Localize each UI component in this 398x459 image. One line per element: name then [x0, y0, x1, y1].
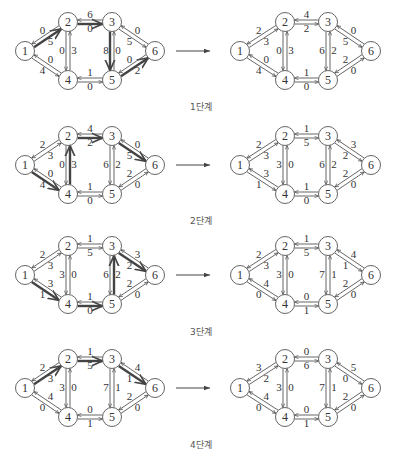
edge-1-2: 32: [247, 248, 278, 272]
capacity-label: 0: [87, 304, 93, 316]
capacity-label: 0: [304, 345, 310, 357]
edge-5-6: 02: [335, 53, 364, 77]
capacity-label: 2: [127, 390, 133, 402]
node-1: 1: [231, 42, 250, 61]
edge-2-4: 30: [276, 256, 294, 295]
capacity-label: 3: [48, 149, 54, 161]
capacity-label: 1: [343, 259, 349, 271]
node-1: 1: [16, 42, 35, 61]
stage-label: 1단계: [190, 100, 212, 113]
node-1: 1: [231, 379, 250, 398]
capacity-label: 0: [343, 372, 349, 384]
residual-graph-before: 3204153001711402123456: [16, 345, 165, 429]
edge-1-2: 32: [247, 24, 278, 48]
capacity-label: 1: [127, 372, 133, 384]
capacity-label: 5: [127, 149, 133, 161]
edge-5-6: 20: [119, 53, 148, 77]
node-label: 5: [109, 73, 115, 87]
capacity-label: 2: [127, 277, 133, 289]
node-5: 5: [103, 185, 122, 204]
edge-4-5: 01: [295, 403, 319, 429]
capacity-label: 1: [304, 417, 310, 429]
capacity-label: 2: [115, 158, 121, 170]
edge-3-5: 62: [103, 146, 121, 185]
node-label: 4: [282, 187, 288, 201]
edge-4-5: 10: [78, 290, 103, 316]
edge-2-4: 03: [59, 32, 77, 71]
capacity-label: 0: [135, 24, 141, 36]
stage-2: 3240420310625002123456321315301062230212…: [16, 122, 381, 206]
stage-label: 3단계: [190, 325, 212, 338]
capacity-label: 4: [87, 122, 93, 134]
arrow-1-to-4: [32, 282, 59, 300]
capacity-label: 6: [103, 158, 109, 170]
node-label: 4: [282, 73, 288, 87]
node-label: 1: [237, 44, 243, 58]
capacity-label: 4: [351, 248, 357, 260]
node-4: 4: [59, 408, 78, 427]
capacity-label: 2: [304, 22, 310, 34]
capacity-label: 0: [135, 178, 141, 190]
node-5: 5: [319, 71, 338, 90]
arrow-3-to-6: [119, 143, 146, 161]
capacity-label: 3: [288, 44, 294, 56]
capacity-label: 7: [319, 381, 325, 393]
arrow-1-to-4: [32, 395, 59, 413]
capacity-label: 0: [135, 288, 141, 300]
node-label: 6: [152, 268, 158, 282]
arrow-6-to-5: [335, 392, 362, 410]
residual-graph-before: 3240420310625002123456: [16, 122, 165, 206]
capacity-label: 0: [288, 268, 294, 280]
capacity-label: 0: [48, 167, 54, 179]
capacity-label: 0: [351, 64, 357, 76]
capacity-label: 3: [351, 138, 357, 150]
node-label: 5: [325, 73, 331, 87]
node-6: 6: [362, 379, 381, 398]
capacity-label: 1: [331, 268, 337, 280]
node-label: 5: [109, 297, 115, 311]
edge-3-6: 23: [335, 138, 364, 162]
edge-5-6: 02: [335, 390, 364, 414]
edge-2-4: 03: [276, 32, 294, 71]
capacity-label: 3: [256, 361, 262, 373]
capacity-label: 0: [256, 401, 262, 413]
stage-3: 3213153010622302123456320415300171140212…: [16, 232, 381, 316]
node-label: 1: [237, 268, 243, 282]
capacity-label: 7: [103, 381, 109, 393]
capacity-label: 4: [40, 178, 46, 190]
arrow-6-to-5: [119, 55, 146, 73]
node-label: 1: [237, 158, 243, 172]
capacity-label: 1: [331, 381, 337, 393]
edge-3-6: 14: [119, 361, 148, 385]
capacity-label: 2: [343, 53, 349, 65]
arrow-6-to-5: [335, 169, 362, 187]
node-5: 5: [103, 408, 122, 427]
node-4: 4: [59, 295, 78, 314]
capacity-label: 4: [264, 390, 270, 402]
capacity-label: 2: [256, 138, 262, 150]
capacity-label: 2: [40, 361, 46, 373]
node-label: 6: [152, 44, 158, 58]
capacity-label: 2: [127, 259, 133, 271]
capacity-label: 2: [135, 64, 141, 76]
node-label: 3: [325, 352, 331, 366]
edge-4-5: 10: [78, 180, 103, 206]
capacity-label: 4: [304, 8, 310, 20]
node-label: 2: [282, 129, 288, 143]
arrow-6-to-5: [119, 169, 146, 187]
capacity-label: 0: [135, 138, 141, 150]
arrow-1-to-4: [32, 172, 59, 190]
arrow-3-to-6: [119, 29, 146, 47]
node-label: 2: [282, 15, 288, 29]
capacity-label: 0: [351, 288, 357, 300]
capacity-label: 1: [40, 288, 46, 300]
capacity-label: 0: [135, 401, 141, 413]
capacity-label: 3: [48, 277, 54, 289]
node-3: 3: [103, 350, 122, 369]
node-2: 2: [276, 127, 295, 146]
capacity-label: 0: [115, 44, 121, 56]
capacity-label: 1: [304, 304, 310, 316]
capacity-label: 3: [48, 259, 54, 271]
capacity-label: 6: [319, 158, 325, 170]
edge-1-2: 32: [32, 248, 61, 272]
